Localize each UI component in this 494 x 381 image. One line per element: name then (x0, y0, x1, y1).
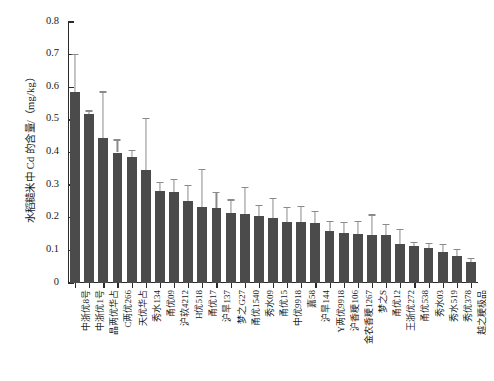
error-bar (103, 91, 104, 137)
error-bar-cap (284, 207, 291, 208)
bar-group (113, 22, 123, 283)
error-bar-cap (86, 110, 93, 111)
y-tick-label: 0.8 (46, 15, 59, 26)
x-tick-mark (344, 283, 345, 288)
bar-group (141, 22, 151, 283)
error-bar (216, 192, 217, 208)
error-bar (244, 187, 245, 214)
bar (141, 170, 151, 283)
bar-group (254, 22, 264, 283)
error-bar (400, 229, 401, 244)
y-tick-label: 0.3 (46, 178, 59, 189)
x-tick-mark (315, 283, 316, 288)
x-tick-mark (414, 283, 415, 288)
x-tick-label: C两优266 (121, 290, 134, 328)
error-bar-cap (354, 221, 361, 222)
bar-group (84, 22, 94, 283)
x-tick-label: 甬优15 (277, 290, 290, 317)
error-bar (75, 54, 76, 92)
x-tick-mark (301, 283, 302, 288)
x-tick-mark (245, 283, 246, 288)
error-bar-cap (72, 54, 79, 55)
bar (367, 235, 377, 283)
error-bar-cap (100, 91, 107, 92)
x-tick-mark (372, 283, 373, 288)
error-bar-cap (326, 221, 333, 222)
error-bar (188, 185, 189, 201)
bar (169, 192, 179, 283)
error-bar (173, 179, 174, 193)
x-tick-label: 王浙优272 (404, 290, 417, 331)
bar-group (381, 22, 391, 283)
bar (212, 208, 222, 283)
x-tick-label: 中浙优8号 (79, 290, 92, 331)
x-tick-label: 沪软4212 (178, 290, 191, 326)
error-bar-cap (411, 242, 418, 243)
x-tick-label: 梦之S (376, 290, 389, 313)
x-tick-label: 秀水519 (447, 290, 460, 322)
error-bar-cap (241, 187, 248, 188)
y-tick-label: 0.5 (46, 112, 59, 123)
x-tick-label: H优518 (192, 290, 205, 319)
x-tick-mark (103, 283, 104, 288)
error-bar-cap (114, 139, 121, 140)
bar (339, 233, 349, 283)
x-tick-label: 甬优17 (206, 290, 219, 317)
x-tick-mark (202, 283, 203, 288)
error-bar (371, 214, 372, 234)
error-bar (272, 198, 273, 218)
error-bar-cap (453, 249, 460, 250)
error-bar-cap (199, 169, 206, 170)
x-tick-mark (400, 283, 401, 288)
bar-group (183, 22, 193, 283)
x-tick-mark (160, 283, 161, 288)
bar-group (409, 22, 419, 283)
x-tick-mark (188, 283, 189, 288)
bar (282, 222, 292, 283)
error-bar-cap (383, 224, 390, 225)
x-tick-mark (443, 283, 444, 288)
error-bar-cap (255, 205, 262, 206)
bar (438, 252, 448, 283)
error-bar-cap (425, 243, 432, 244)
error-bar (357, 221, 358, 234)
x-tick-mark (273, 283, 274, 288)
bar (381, 235, 391, 283)
bar-group (452, 22, 462, 283)
bar (183, 201, 193, 283)
bar (296, 222, 306, 283)
error-bar (442, 244, 443, 252)
y-axis-title: 水稻糙米中 Cd 的含量/（mg/kg） (22, 23, 37, 273)
bar (84, 114, 94, 283)
x-tick-label: 甬优09 (164, 290, 177, 317)
bar-group (169, 22, 179, 283)
bar-group (466, 22, 476, 283)
x-tick-label: 沪旱137 (220, 290, 233, 322)
x-tick-label: 秀水09 (263, 290, 276, 317)
bar-group (367, 22, 377, 283)
error-bar-cap (156, 182, 163, 183)
x-tick-mark (89, 283, 90, 288)
error-bar-cap (171, 179, 178, 180)
error-bar-cap (142, 118, 149, 119)
bar-group (339, 22, 349, 283)
error-bar (145, 118, 146, 170)
error-bar-cap (185, 185, 192, 186)
y-tick-label: 0 (54, 276, 59, 287)
bar (409, 246, 419, 283)
bar-group (438, 22, 448, 283)
y-tick-label: 0.1 (46, 243, 59, 254)
bar-chart-figure: 水稻糙米中 Cd 的含量/（mg/kg） 00.10.20.30.40.50.6… (0, 0, 494, 381)
x-tick-label: 金农香粳1267 (362, 290, 375, 344)
error-bar (386, 224, 387, 235)
bar (424, 248, 434, 283)
error-bar-cap (269, 198, 276, 199)
bar (155, 191, 165, 283)
x-tick-mark (259, 283, 260, 288)
bar (240, 214, 250, 283)
bar (395, 244, 405, 283)
x-tick-label: 秀优378 (461, 290, 474, 322)
plot-area: 00.10.20.30.40.50.60.70.8 (68, 22, 478, 283)
error-bar-cap (128, 150, 135, 151)
error-bar-cap (368, 214, 375, 215)
